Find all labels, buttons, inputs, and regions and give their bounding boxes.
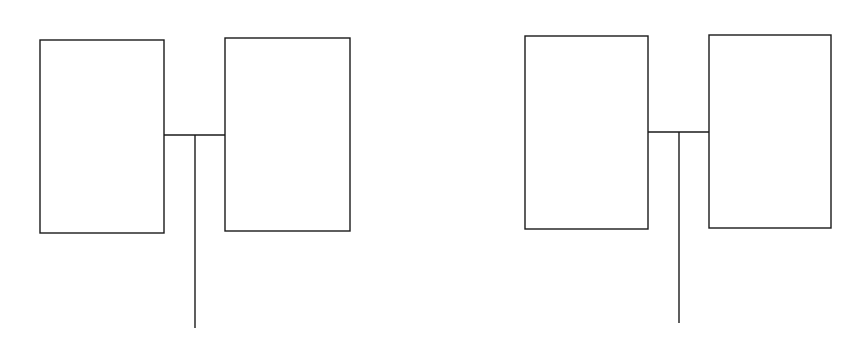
diagram-canvas xyxy=(0,0,865,341)
box-right xyxy=(225,38,350,231)
box-pair-right-pair xyxy=(525,35,831,323)
box-left xyxy=(525,36,648,229)
box-pair-left-pair xyxy=(40,38,350,328)
box-left xyxy=(40,40,164,233)
box-right xyxy=(709,35,831,228)
